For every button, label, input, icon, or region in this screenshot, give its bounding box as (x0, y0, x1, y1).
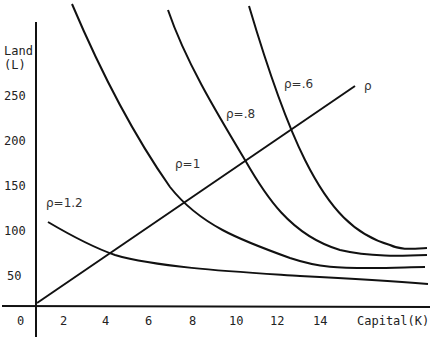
x-tick: 10 (229, 314, 243, 328)
x-tick: 4 (102, 314, 109, 328)
x-axis (2, 306, 430, 307)
curve-rho-1.2 (48, 222, 428, 284)
x-tick: 2 (60, 314, 67, 328)
curve-rho-0.6 (249, 6, 427, 249)
x-tick: 0 (17, 314, 24, 328)
y-tick: 250 (4, 89, 26, 103)
rho-ray-label: ρ (364, 79, 372, 93)
curve-rho-0.8 (168, 10, 427, 256)
y-tick: 200 (4, 134, 26, 148)
y-axis-label-line2: (L) (4, 58, 26, 72)
curve-label-rho-1: ρ=1 (175, 157, 200, 171)
rho-ray (37, 86, 355, 303)
x-tick: 12 (270, 314, 284, 328)
chart: Land (L) 250 200 150 100 50 0 2 4 6 8 10… (0, 0, 432, 340)
x-tick: 6 (145, 314, 152, 328)
x-axis-label: Capital(K) (357, 314, 429, 328)
curve-label-rho-0.6: ρ=.6 (284, 77, 313, 91)
y-axis-label-line1: Land (4, 44, 33, 58)
x-tick: 8 (189, 314, 196, 328)
curve-label-rho-1.2: ρ=1.2 (46, 196, 83, 210)
y-tick: 100 (4, 224, 26, 238)
y-tick: 50 (7, 269, 21, 283)
curve-rho-1 (72, 4, 425, 268)
curve-label-rho-0.8: ρ=.8 (226, 107, 255, 121)
x-tick: 14 (313, 314, 327, 328)
y-tick: 150 (4, 179, 26, 193)
